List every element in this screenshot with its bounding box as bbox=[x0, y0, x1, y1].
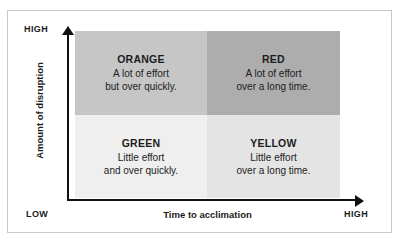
quadrant-red: RED A lot of effort over a long time. bbox=[207, 31, 340, 115]
quadrant-orange: ORANGE A lot of effort but over quickly. bbox=[75, 31, 207, 115]
x-axis-arrow-icon bbox=[355, 195, 364, 207]
quadrant-red-line-1: A lot of effort bbox=[246, 67, 302, 80]
quadrant-red-title: RED bbox=[262, 53, 285, 66]
quadrant-yellow-line-1: Little effort bbox=[250, 151, 297, 164]
x-axis-title: Time to acclimation bbox=[75, 209, 340, 220]
quadrant-matrix-figure: ORANGE A lot of effort but over quickly.… bbox=[0, 0, 404, 243]
x-axis-line bbox=[67, 199, 357, 201]
quadrant-green-title: GREEN bbox=[122, 137, 161, 150]
quadrant-green: GREEN Little effort and over quickly. bbox=[75, 115, 207, 198]
quadrant-yellow: YELLOW Little effort over a long time. bbox=[207, 115, 340, 198]
quadrant-yellow-line-2: over a long time. bbox=[237, 164, 311, 177]
quadrant-green-line-2: and over quickly. bbox=[104, 164, 178, 177]
quadrant-red-line-2: over a long time. bbox=[237, 80, 311, 93]
x-axis-low-label: LOW bbox=[26, 209, 48, 219]
x-axis-high-label: HIGH bbox=[344, 209, 368, 219]
quadrant-green-line-1: Little effort bbox=[118, 151, 165, 164]
y-axis-high-label: HIGH bbox=[24, 24, 48, 34]
quadrant-orange-title: ORANGE bbox=[117, 53, 165, 66]
y-axis-arrow-icon bbox=[62, 26, 74, 35]
quadrant-orange-line-1: A lot of effort bbox=[113, 67, 169, 80]
quadrant-grid: ORANGE A lot of effort but over quickly.… bbox=[75, 31, 340, 198]
quadrant-yellow-title: YELLOW bbox=[250, 137, 296, 150]
y-axis-title: Amount of disruption bbox=[34, 51, 45, 171]
y-axis-line bbox=[67, 34, 69, 200]
quadrant-orange-line-2: but over quickly. bbox=[105, 80, 177, 93]
